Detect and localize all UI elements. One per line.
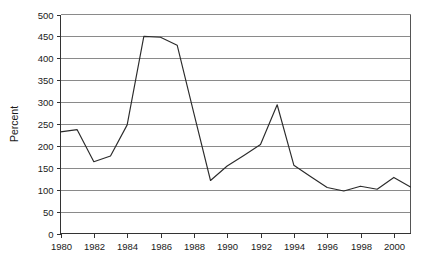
- y-tick-label-150: 150: [38, 163, 54, 174]
- x-axis-tick-labels: 1980198219841986198819901992199419961998…: [51, 241, 405, 252]
- y-tick-label-400: 400: [38, 53, 54, 64]
- y-tick-label-0: 0: [48, 229, 53, 240]
- line-chart: 050100150200250300350400450500 198019821…: [0, 0, 423, 263]
- x-tick-label-1988: 1988: [184, 241, 205, 252]
- y-tick-label-500: 500: [38, 10, 54, 21]
- x-tick-label-1982: 1982: [84, 241, 105, 252]
- y-tick-label-50: 50: [43, 207, 54, 218]
- y-tick-label-200: 200: [38, 141, 54, 152]
- x-tick-label-1984: 1984: [117, 241, 138, 252]
- y-tick-label-350: 350: [38, 75, 54, 86]
- x-tick-label-1998: 1998: [351, 241, 372, 252]
- x-tick-label-1994: 1994: [284, 241, 305, 252]
- y-tick-label-100: 100: [38, 185, 54, 196]
- x-tick-label-2000: 2000: [384, 241, 405, 252]
- y-tick-label-450: 450: [38, 31, 54, 42]
- y-tick-label-250: 250: [38, 119, 54, 130]
- y-tick-label-300: 300: [38, 97, 54, 108]
- x-tick-label-1986: 1986: [151, 241, 172, 252]
- x-tick-label-1980: 1980: [51, 241, 72, 252]
- x-tick-label-1990: 1990: [217, 241, 238, 252]
- y-axis-label: Percent: [8, 106, 20, 142]
- x-tick-label-1992: 1992: [251, 241, 272, 252]
- x-tick-label-1996: 1996: [317, 241, 338, 252]
- chart-container: 050100150200250300350400450500 198019821…: [0, 0, 423, 263]
